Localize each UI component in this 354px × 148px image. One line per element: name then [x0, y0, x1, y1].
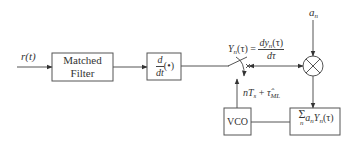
matched-filter-label: Matched Filter	[52, 54, 113, 80]
an-label: an	[309, 6, 318, 18]
vco-label: VCO	[224, 115, 251, 128]
yn-definition-label: Yn(τ) = dyn(τ)dτ	[228, 37, 284, 62]
input-signal-label: r(t)	[21, 50, 36, 62]
matched-filter-line1: Matched	[52, 54, 113, 67]
matched-filter-line2: Filter	[52, 67, 113, 80]
sampling-time-label: nTs + τ̂ML	[243, 87, 280, 99]
summer-label: Σ n anYn(τ)	[292, 110, 340, 128]
diff-num: d	[156, 54, 164, 67]
diff-den: dt	[156, 67, 164, 79]
diff-arg: (•)	[164, 60, 174, 71]
differentiator-label: ddt(•)	[149, 54, 181, 79]
